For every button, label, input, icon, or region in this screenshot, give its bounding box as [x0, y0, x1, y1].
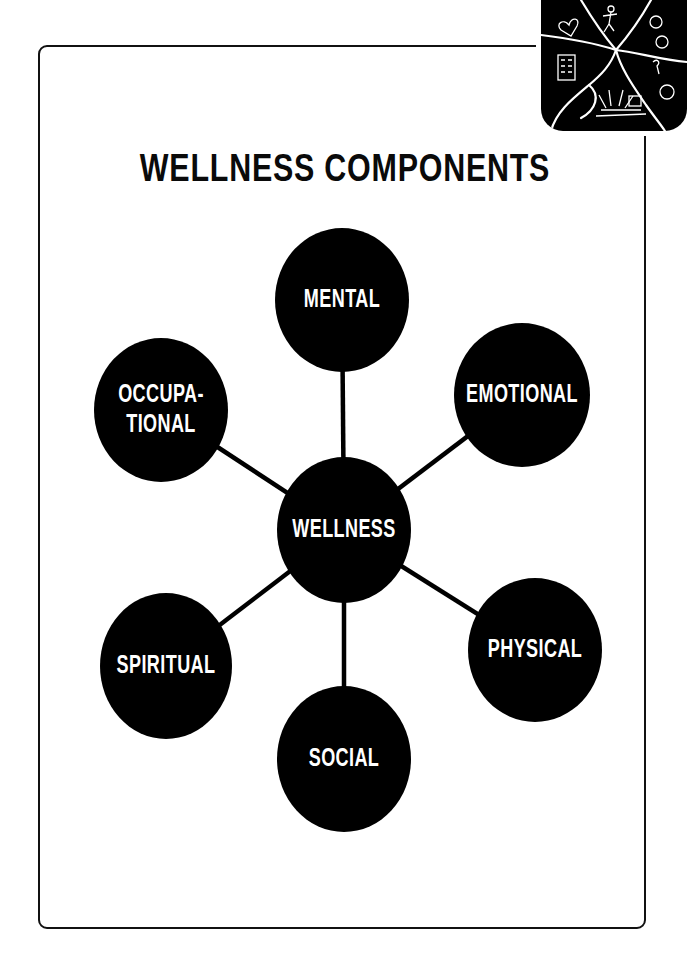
node-spiritual-label: SPIRITUAL: [117, 650, 216, 679]
node-spiritual: SPIRITUAL: [100, 593, 232, 739]
node-occupational-label: TIONAL: [126, 409, 196, 438]
node-occupational-label: OCCUPA-: [118, 379, 204, 408]
wellness-diagram: MENTALEMOTIONALOCCUPA-TIONALPHYSICALSPIR…: [0, 0, 691, 965]
node-emotional: EMOTIONAL: [454, 323, 590, 467]
node-physical: PHYSICAL: [468, 578, 602, 722]
node-emotional-label: EMOTIONAL: [466, 379, 578, 408]
node-wellness-center: WELLNESS: [277, 457, 411, 603]
node-social: SOCIAL: [277, 686, 411, 832]
node-mental: MENTAL: [275, 228, 409, 372]
node-physical-label: PHYSICAL: [488, 634, 582, 663]
node-social-label: SOCIAL: [309, 743, 380, 772]
node-occupational: OCCUPA-TIONAL: [94, 338, 228, 482]
node-wellness-center-label: WELLNESS: [292, 514, 395, 543]
node-mental-label: MENTAL: [304, 284, 380, 313]
